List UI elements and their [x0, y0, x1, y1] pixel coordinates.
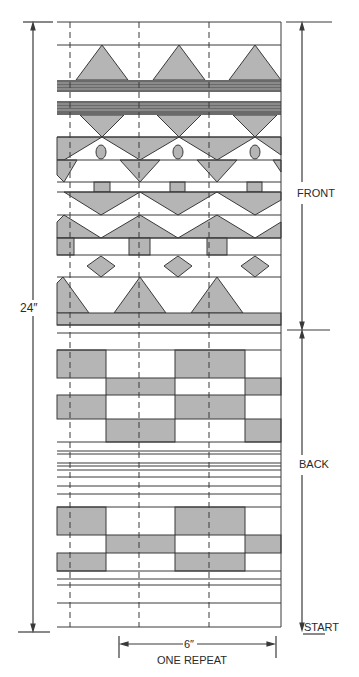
start-label: START — [304, 621, 339, 633]
repeat-width-label: 6″ — [184, 638, 194, 650]
repeat-caption: ONE REPEAT — [157, 654, 227, 666]
knitting-chart — [0, 0, 359, 677]
back-label: BACK — [299, 458, 329, 470]
front-label: FRONT — [297, 187, 335, 199]
height-label: 24″ — [20, 302, 38, 314]
